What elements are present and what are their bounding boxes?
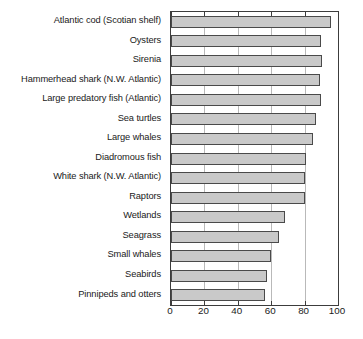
bar: [171, 231, 279, 243]
category-label: Atlantic cod (Scotian shelf): [0, 11, 166, 31]
category-label: Large whales: [0, 128, 166, 148]
bar: [171, 153, 306, 165]
bar: [171, 113, 316, 125]
bar-row: [171, 55, 338, 67]
x-tick-label: 100: [329, 306, 345, 316]
bar-row: [171, 35, 338, 47]
bar-chart: Atlantic cod (Scotian shelf)OystersSiren…: [0, 0, 363, 339]
category-label: Seabirds: [0, 265, 166, 285]
bar: [171, 211, 285, 223]
bar: [171, 74, 320, 86]
bar-row: [171, 153, 338, 165]
category-label: Sea turtles: [0, 109, 166, 129]
bar: [171, 192, 305, 204]
x-tick-label: 40: [231, 306, 242, 316]
category-label: White shark (N.W. Atlantic): [0, 167, 166, 187]
bar-row: [171, 133, 338, 145]
category-label: Wetlands: [0, 206, 166, 226]
bar: [171, 250, 271, 262]
bar-row: [171, 250, 338, 262]
category-label: Raptors: [0, 187, 166, 207]
bar: [171, 94, 321, 106]
bar-row: [171, 192, 338, 204]
x-tick-label: 80: [298, 306, 309, 316]
tick-mark-top: [338, 12, 339, 16]
category-axis-labels: Atlantic cod (Scotian shelf)OystersSiren…: [0, 11, 166, 304]
bar: [171, 270, 267, 282]
bar: [171, 133, 313, 145]
bar-row: [171, 211, 338, 223]
category-label: Sirenia: [0, 50, 166, 70]
bar-row: [171, 289, 338, 301]
bar-row: [171, 16, 338, 28]
x-axis-tick-labels: 020406080100: [0, 306, 363, 324]
bar: [171, 289, 265, 301]
category-label: Hammerhead shark (N.W. Atlantic): [0, 70, 166, 90]
bar-row: [171, 94, 338, 106]
bar-row: [171, 270, 338, 282]
category-label: Small whales: [0, 245, 166, 265]
bar-row: [171, 113, 338, 125]
category-label: Large predatory fish (Atlantic): [0, 89, 166, 109]
bar-row: [171, 231, 338, 243]
x-tick-label: 20: [198, 306, 209, 316]
category-label: Diadromous fish: [0, 148, 166, 168]
x-tick-label: 60: [265, 306, 276, 316]
bar: [171, 35, 321, 47]
bar: [171, 16, 331, 28]
category-label: Pinnipeds and otters: [0, 284, 166, 304]
bar-row: [171, 74, 338, 86]
bar: [171, 55, 322, 67]
plot-area: [170, 11, 339, 306]
bars-layer: [171, 12, 338, 305]
x-tick-label: 0: [167, 306, 172, 316]
category-label: Oysters: [0, 31, 166, 51]
bar-row: [171, 172, 338, 184]
category-label: Seagrass: [0, 226, 166, 246]
bar: [171, 172, 305, 184]
